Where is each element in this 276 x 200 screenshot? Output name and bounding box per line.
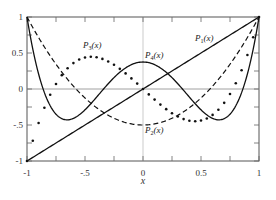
p3-dot	[206, 117, 209, 120]
p3-dot	[95, 56, 98, 59]
p3-dot	[78, 58, 81, 61]
series-labels: P1(x)P2(x)P3(x)P4(x)	[82, 33, 214, 136]
p3-dot	[26, 160, 29, 163]
p3-dot	[229, 93, 232, 96]
p3-dot	[142, 88, 145, 91]
p3-dot	[55, 83, 58, 86]
p3-dot	[252, 36, 255, 39]
p3-dot	[159, 103, 162, 106]
series-label-p1: P1(x)	[194, 33, 214, 44]
p3-dot	[171, 112, 174, 115]
p3-dot	[32, 139, 35, 142]
x-axis-title: x	[140, 175, 146, 186]
p3-dot	[246, 54, 249, 57]
y-tick-label: -.5	[13, 120, 23, 130]
p3-dot	[136, 82, 139, 85]
p3-dot	[72, 62, 75, 65]
p3-dot	[200, 119, 203, 122]
p3-dot	[153, 98, 156, 101]
p3-dot	[61, 74, 64, 77]
p3-dot	[84, 56, 87, 59]
p3-dot	[148, 93, 151, 96]
p3-dot	[223, 102, 226, 105]
p3-dot	[130, 77, 133, 80]
p3-dot	[101, 58, 104, 61]
p3-dot	[90, 56, 93, 59]
p3-dot	[37, 122, 40, 125]
p3-dot	[188, 119, 191, 122]
y-tick-label: 1	[19, 12, 24, 22]
p3-dot	[177, 115, 180, 118]
p3-dot	[165, 108, 168, 111]
legendre-polynomials-chart: -1-.500.5110.50-.5-1 P1(x)P2(x)P3(x)P4(x…	[0, 0, 276, 200]
x-tick-label: -.5	[80, 168, 90, 178]
series-label-p2: P2(x)	[144, 125, 164, 136]
p3-dot	[107, 60, 110, 63]
y-tick-label: -1	[16, 156, 24, 166]
p3-dot	[119, 68, 122, 71]
y-tick-label: 0	[19, 84, 24, 94]
p3-dot	[240, 69, 243, 72]
x-tick-label: 0.5	[195, 168, 207, 178]
p3-dot	[49, 93, 52, 96]
y-tick-label: 0.5	[12, 48, 24, 58]
x-tick-label: 1	[257, 168, 262, 178]
p3-dot	[194, 120, 197, 123]
series-label-p4: P4(x)	[144, 50, 164, 61]
p3-dot	[211, 114, 214, 117]
p3-dot	[182, 118, 185, 121]
p3-dot	[66, 67, 69, 70]
p3-dot	[217, 108, 220, 111]
p3-dot	[124, 72, 127, 75]
series-label-p3: P3(x)	[82, 40, 102, 51]
p3-dot	[43, 106, 46, 109]
p3-dot	[113, 64, 116, 67]
p3-dot	[235, 82, 238, 85]
x-tick-label: -1	[23, 168, 31, 178]
